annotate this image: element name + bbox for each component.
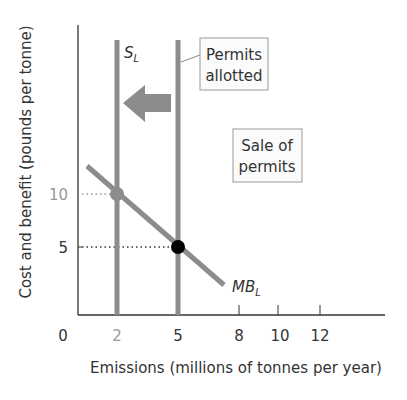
- chart: Permits allotted Sale of permits SL MBL …: [0, 0, 407, 400]
- leader-line: [181, 55, 200, 62]
- point-10: [110, 187, 124, 201]
- sale-label-2: permits: [238, 158, 295, 176]
- x-tick-label-5: 5: [173, 327, 183, 345]
- x-tick-label-10: 10: [270, 327, 289, 345]
- permits-label-1: Permits: [206, 46, 262, 64]
- y-tick-label-5: 5: [58, 239, 68, 257]
- x-tick-label-12: 12: [310, 327, 329, 345]
- arrow-left-icon: [123, 85, 171, 122]
- x-axis-title: Emissions (millions of tonnes per year): [90, 359, 382, 377]
- x-tick-label-8: 8: [234, 327, 244, 345]
- x-tick-label-0: 0: [58, 327, 68, 345]
- y-tick-label-10: 10: [49, 186, 68, 204]
- sl-label: SL: [124, 44, 139, 64]
- y-axis-title: Cost and benefit (pounds per tonne): [17, 25, 35, 298]
- mb-label: MBL: [232, 278, 261, 298]
- x-tick-label-2: 2: [112, 327, 122, 345]
- sale-label-1: Sale of: [241, 137, 293, 155]
- point-5: [171, 240, 185, 254]
- mb-curve: [87, 166, 224, 285]
- permits-label-2: allotted: [205, 67, 262, 85]
